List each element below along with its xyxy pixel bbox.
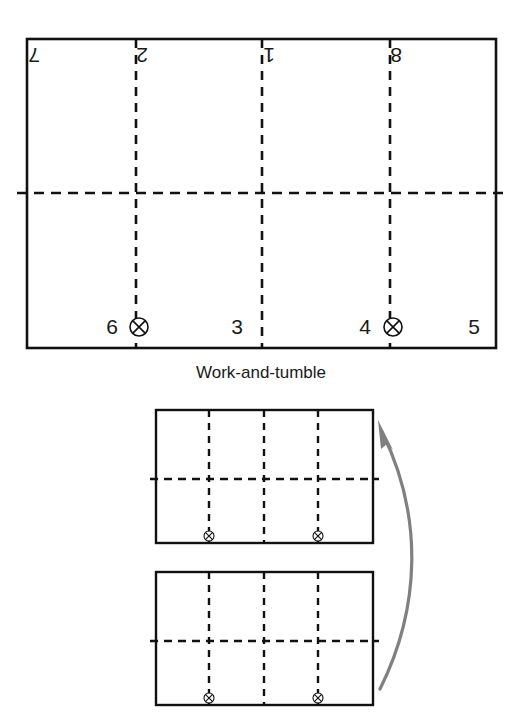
tumble-arrow-head xyxy=(378,420,393,450)
page-number-bottom-3: 3 xyxy=(231,315,243,338)
sheet-collation-mark-1 xyxy=(130,318,148,336)
thumbnail-top-collation-mark-1 xyxy=(204,531,214,541)
thumbnail-bottom xyxy=(150,572,379,705)
thumbnail-bottom-collation-mark-1 xyxy=(204,693,214,703)
thumbnail-group xyxy=(150,410,379,705)
page-number-bottom-6: 6 xyxy=(106,315,118,338)
figure-canvas: 7218 6345 Work-and-tumble xyxy=(0,0,522,719)
page-number-top-1: 1 xyxy=(263,44,275,67)
page-number-top-8: 8 xyxy=(390,44,402,67)
tumble-arrow xyxy=(378,420,412,689)
imposition-diagram: 7218 6345 Work-and-tumble xyxy=(0,0,522,719)
thumbnail-bottom-collation-mark-2 xyxy=(313,693,323,703)
thumbnail-top-collation-mark-2 xyxy=(313,531,323,541)
sheet-collation-mark-2 xyxy=(384,318,402,336)
imposition-sheet: 7218 6345 xyxy=(17,39,506,348)
page-number-bottom-4: 4 xyxy=(359,315,371,338)
figure-caption: Work-and-tumble xyxy=(196,363,326,382)
tumble-arrow-shaft xyxy=(380,432,412,689)
page-number-top-7: 7 xyxy=(28,44,40,67)
thumbnail-top xyxy=(150,410,379,543)
page-number-top-2: 2 xyxy=(136,44,148,67)
page-number-bottom-5: 5 xyxy=(468,315,480,338)
